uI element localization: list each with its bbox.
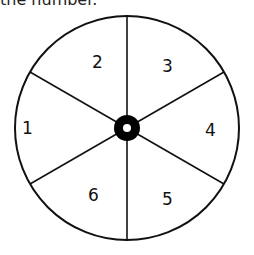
section-label-1: 1 bbox=[22, 118, 33, 138]
spinner-diagram: 1 2 3 4 5 6 bbox=[0, 0, 254, 255]
spinner-hub-hole bbox=[123, 124, 131, 132]
section-label-3: 3 bbox=[162, 56, 173, 76]
section-label-2: 2 bbox=[92, 52, 103, 72]
section-label-4: 4 bbox=[205, 120, 216, 140]
section-label-5: 5 bbox=[162, 189, 173, 209]
section-label-6: 6 bbox=[88, 185, 99, 205]
